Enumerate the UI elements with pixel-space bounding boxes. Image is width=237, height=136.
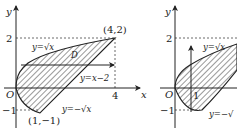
tick-y-2-right: 2 <box>166 33 172 44</box>
tick-y-neg1-right: −1 <box>160 105 175 116</box>
curve-sqrt-label-right: y=√x <box>202 42 225 52</box>
curve-neg-sqrt-label: y=−√x <box>61 104 91 114</box>
y-axis-label-right: y <box>164 6 171 17</box>
tick-y-2: 2 <box>6 33 12 44</box>
region-right <box>175 44 237 110</box>
x-axis-label: x <box>141 89 147 100</box>
tick-y-neg1: −1 <box>2 105 17 116</box>
right-graph: y O 2 −1 1 y=√x y=−√ <box>160 6 237 128</box>
origin-label-right: O <box>165 89 173 100</box>
point-4-2-label: (4,2) <box>103 24 127 35</box>
curve-neg-sqrt-label-right: y=−√ <box>208 109 234 119</box>
left-graph: y x O 4 2 −1 (4,2) (1,−1) y=√x y=x−2 y=−… <box>2 6 147 128</box>
y-axis-label: y <box>5 6 12 17</box>
origin-label: O <box>6 89 14 100</box>
tick-x-1-right: 1 <box>193 90 199 101</box>
integration-region-diagram: y x O 4 2 −1 (4,2) (1,−1) y=√x y=x−2 y=−… <box>0 0 237 136</box>
curve-sqrt-label: y=√x <box>31 42 54 52</box>
line-x-minus-2-label: y=x−2 <box>79 73 109 83</box>
region-d-label: D <box>70 50 78 60</box>
tick-x-4: 4 <box>112 90 118 101</box>
point-1-neg1-label: (1,−1) <box>28 115 60 126</box>
